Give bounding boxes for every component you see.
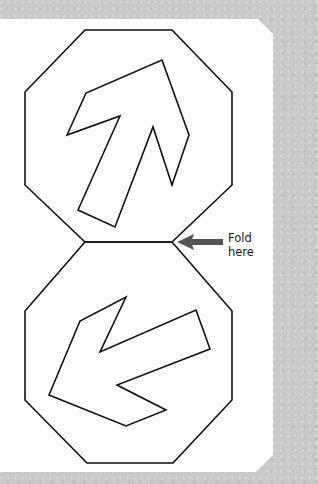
fold-label-line1: Fold xyxy=(228,231,254,245)
fold-label-line2: here xyxy=(228,245,254,259)
fold-here-label: Fold here xyxy=(228,231,254,259)
